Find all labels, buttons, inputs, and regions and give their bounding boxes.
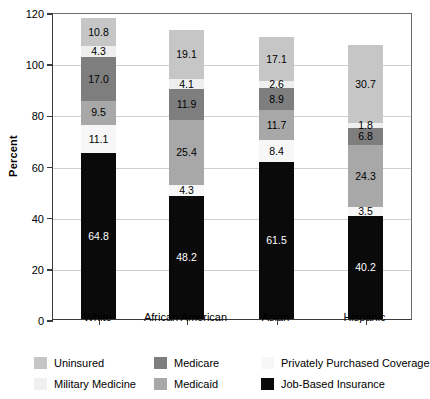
segment-value-label: 11.9 — [177, 99, 197, 110]
bar-segment[interactable]: 4.3 — [169, 185, 204, 196]
y-tick-label: 100 — [26, 59, 44, 71]
bar-segment[interactable]: 10.8 — [81, 18, 116, 46]
segment-value-label: 17.1 — [266, 54, 286, 65]
bar-segment[interactable]: 61.5 — [259, 162, 294, 319]
segment-value-label: 6.8 — [358, 131, 373, 142]
y-tick-mark — [47, 116, 53, 118]
segment-value-label: 17.0 — [88, 74, 108, 85]
x-tick-label: Asian — [262, 311, 290, 323]
bar-segment[interactable]: 3.5 — [348, 207, 383, 216]
segment-value-label: 11.1 — [89, 134, 109, 145]
legend-swatch-icon — [34, 357, 47, 369]
bar-african-american[interactable]: 48.24.325.411.94.119.1 — [169, 30, 204, 319]
x-tick-label: White — [83, 311, 111, 323]
bar-segment[interactable]: 30.7 — [348, 45, 383, 124]
legend-item[interactable]: Privately Purchased Coverage — [261, 357, 421, 369]
bar-segment[interactable]: 1.8 — [348, 123, 383, 128]
bar-segment[interactable]: 48.2 — [169, 196, 204, 319]
segment-value-label: 19.1 — [176, 49, 196, 60]
segment-value-label: 10.8 — [88, 27, 108, 38]
x-tick-label: Hispanic — [343, 311, 385, 323]
y-tick-mark — [47, 64, 53, 66]
segment-value-label: 4.1 — [179, 79, 194, 90]
bar-segment[interactable]: 40.2 — [348, 216, 383, 319]
legend-swatch-icon — [261, 357, 274, 369]
plot-area: 020406080100120 64.811.19.517.04.310.848… — [52, 13, 412, 320]
y-tick-mark — [47, 320, 53, 322]
legend-item[interactable]: Job-Based Insurance — [261, 378, 421, 390]
bar-segment[interactable]: 4.3 — [81, 46, 116, 57]
bar-white[interactable]: 64.811.19.517.04.310.8 — [81, 18, 116, 319]
y-tick-label: 20 — [32, 264, 44, 276]
y-tick-mark — [47, 167, 53, 169]
bar-hispanic[interactable]: 40.23.524.36.81.830.7 — [348, 45, 383, 319]
bar-segment[interactable]: 25.4 — [169, 120, 204, 185]
y-tick-label: 120 — [26, 8, 44, 20]
segment-value-label: 24.3 — [355, 171, 375, 182]
legend-label: Military Medicine — [54, 378, 136, 390]
bar-asian[interactable]: 61.58.411.78.92.617.1 — [259, 37, 294, 319]
segment-value-label: 64.8 — [88, 231, 108, 242]
bar-segment[interactable]: 2.6 — [259, 81, 294, 88]
chart-legend: UninsuredMedicarePrivately Purchased Cov… — [34, 352, 419, 394]
legend-item[interactable]: Military Medicine — [34, 378, 154, 390]
segment-value-label: 40.2 — [355, 262, 375, 273]
segment-value-label: 30.7 — [355, 79, 375, 90]
bar-segment[interactable]: 19.1 — [169, 30, 204, 79]
y-axis-title: Percent — [7, 121, 19, 191]
bar-segment[interactable]: 17.1 — [259, 37, 294, 81]
y-tick-label: 80 — [32, 110, 44, 122]
y-tick-mark — [47, 218, 53, 220]
segment-value-label: 4.3 — [91, 46, 106, 57]
y-tick-label: 60 — [32, 162, 44, 174]
segment-value-label: 8.9 — [269, 94, 284, 105]
segment-value-label: 3.5 — [358, 206, 373, 217]
bar-segment[interactable]: 8.9 — [259, 88, 294, 111]
legend-label: Job-Based Insurance — [281, 378, 385, 390]
bar-segment[interactable]: 11.9 — [169, 89, 204, 119]
legend-item[interactable]: Medicare — [154, 357, 261, 369]
bar-segment[interactable]: 9.5 — [81, 101, 116, 125]
segment-value-label: 8.4 — [269, 146, 284, 157]
segment-value-label: 1.8 — [358, 120, 373, 131]
legend-swatch-icon — [154, 357, 167, 369]
bar-segment[interactable]: 64.8 — [81, 153, 116, 319]
segment-value-label: 48.2 — [176, 252, 196, 263]
x-tick-label: African American — [144, 311, 227, 323]
y-tick-label: 40 — [32, 213, 44, 225]
legend-item[interactable]: Uninsured — [34, 357, 154, 369]
legend-swatch-icon — [34, 378, 47, 390]
y-tick-mark — [47, 13, 53, 15]
legend-swatch-icon — [154, 378, 167, 390]
segment-value-label: 2.6 — [269, 79, 284, 90]
legend-swatch-icon — [261, 378, 274, 390]
legend-label: Medicaid — [174, 378, 218, 390]
legend-item[interactable]: Medicaid — [154, 378, 261, 390]
y-tick-mark — [47, 269, 53, 271]
bar-segment[interactable]: 11.7 — [259, 110, 294, 140]
legend-label: Privately Purchased Coverage — [281, 357, 430, 369]
bar-segment[interactable]: 8.4 — [259, 140, 294, 161]
segment-value-label: 4.3 — [179, 185, 194, 196]
legend-label: Medicare — [174, 357, 219, 369]
y-tick-label: 0 — [38, 315, 44, 327]
segment-value-label: 25.4 — [176, 147, 196, 158]
segment-value-label: 61.5 — [266, 235, 286, 246]
segment-value-label: 11.7 — [267, 120, 287, 131]
bar-segment[interactable]: 4.1 — [169, 79, 204, 89]
legend-label: Uninsured — [54, 357, 104, 369]
bar-segment[interactable]: 24.3 — [348, 145, 383, 207]
bar-segment[interactable]: 11.1 — [81, 125, 116, 153]
bar-segment[interactable]: 17.0 — [81, 57, 116, 100]
segment-value-label: 9.5 — [91, 107, 106, 118]
